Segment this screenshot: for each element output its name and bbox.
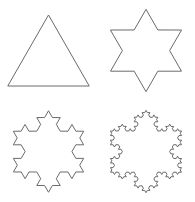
koch-outline-iteration-0: [8, 15, 89, 86]
koch-panel-iteration-2: [0, 101, 97, 202]
koch-panel-iteration-3: [97, 101, 195, 202]
koch-panel-iteration-0: [0, 0, 97, 101]
koch-svg-iteration-1: [97, 0, 195, 101]
koch-svg-iteration-2: [0, 101, 97, 202]
koch-outline-iteration-3: [110, 110, 181, 192]
koch-outline-iteration-2: [13, 111, 83, 192]
koch-iteration-grid: [0, 0, 195, 202]
koch-svg-iteration-3: [97, 101, 195, 202]
koch-svg-iteration-0: [0, 0, 97, 101]
koch-outline-iteration-1: [110, 9, 181, 91]
koch-panel-iteration-1: [97, 0, 195, 101]
